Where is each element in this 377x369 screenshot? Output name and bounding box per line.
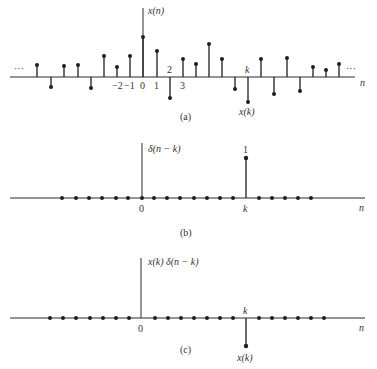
panel-b: δ(n − k) n 1 0 k (b): [10, 143, 365, 239]
panel-c-caption: (c): [180, 344, 191, 356]
panel-a-tick-0: 0: [140, 80, 145, 91]
panel-a-ellipsis-left: ···: [14, 63, 24, 74]
panel-c-xlabel: n: [359, 322, 364, 333]
panel-b-tick-0: 0: [139, 203, 144, 214]
panel-a: x(n) ··· ··· n: [10, 5, 365, 123]
panel-a-tick-minus-1: −1: [124, 80, 135, 91]
panel-a-sample-label-xk: x(k): [238, 106, 255, 118]
panel-c-ylabel: x(k) δ(n − k): [147, 256, 199, 268]
impulse-decomposition-figure: x(n) ··· ··· n: [0, 0, 377, 369]
panel-a-xlabel: n: [360, 77, 365, 88]
panel-b-impulse-value: 1: [243, 144, 248, 155]
panel-c-tick-0: 0: [138, 323, 143, 334]
panel-a-tick-2: 2: [167, 64, 172, 75]
panel-a-caption: (a): [180, 111, 191, 123]
panel-c: x(k) δ(n − k) n k 0 x(k) (c): [10, 256, 365, 364]
panel-a-tick-minus-2: −2: [112, 80, 123, 91]
panel-b-tick-k: k: [243, 203, 248, 214]
panel-c-sample-label-xk: x(k): [236, 352, 253, 364]
panel-b-ylabel: δ(n − k): [148, 143, 181, 155]
panel-a-stems: [35, 35, 341, 104]
panel-b-xlabel: n: [359, 202, 364, 213]
panel-a-ylabel: x(n): [147, 5, 165, 17]
panel-a-tick-1: 1: [154, 80, 159, 91]
panel-c-impulse-stem: [244, 318, 248, 348]
panel-b-caption: (b): [180, 227, 192, 239]
panel-b-impulse-stem: [244, 156, 248, 198]
panel-a-tick-k: k: [245, 64, 250, 75]
panel-a-tick-3: 3: [180, 80, 185, 91]
panel-a-ellipsis-right: ···: [346, 63, 356, 74]
panel-c-tick-k: k: [243, 305, 248, 316]
